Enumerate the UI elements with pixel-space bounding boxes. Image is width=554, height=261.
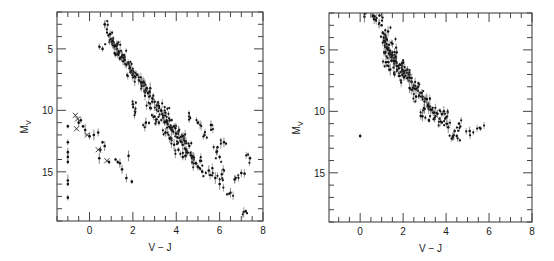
data-point [149, 103, 151, 105]
data-point [158, 114, 160, 116]
data-point [403, 70, 405, 72]
data-point [414, 85, 416, 87]
data-point [418, 83, 420, 85]
data-point [172, 130, 174, 132]
data-point [478, 127, 480, 129]
data-point [476, 127, 478, 129]
data-point [393, 71, 395, 73]
data-point [184, 155, 186, 157]
data-point [386, 43, 388, 45]
data-point [223, 141, 226, 144]
data-point [67, 179, 70, 182]
data-point [237, 177, 239, 179]
data-point [114, 158, 117, 161]
data-point [421, 92, 423, 94]
data-point [150, 107, 152, 109]
data-point [155, 109, 157, 111]
data-point [191, 161, 193, 163]
data-point [119, 44, 121, 46]
x-axis-label: V − J [419, 243, 442, 254]
data-point [219, 178, 221, 180]
x-tick-label: 8 [529, 226, 535, 237]
data-point [435, 112, 437, 114]
cross-marker [74, 126, 79, 131]
data-point [67, 196, 70, 199]
data-point [444, 113, 446, 115]
data-point [132, 70, 134, 72]
data-point [383, 65, 385, 67]
data-point [195, 162, 197, 164]
data-point [177, 132, 179, 134]
data-point [97, 131, 100, 134]
data-point [101, 141, 104, 144]
data-point [204, 131, 206, 133]
data-point [84, 129, 87, 132]
data-point [404, 66, 406, 68]
data-point [243, 172, 245, 174]
data-point [218, 156, 221, 159]
data-point [113, 52, 115, 54]
data-point [125, 177, 128, 180]
data-point [414, 81, 416, 83]
data-point [389, 50, 391, 52]
data-point [82, 125, 85, 128]
data-point [441, 113, 443, 115]
data-point [135, 74, 137, 76]
data-point [450, 138, 452, 140]
data-point [67, 161, 70, 164]
data-point [387, 48, 389, 50]
data-point [167, 134, 169, 136]
data-point [248, 162, 250, 164]
data-point [67, 125, 70, 128]
data-point [387, 30, 390, 33]
data-point [144, 95, 146, 97]
data-point [216, 175, 218, 177]
x-axis-label: V − J [148, 242, 171, 253]
data-point [98, 157, 101, 160]
data-point [449, 122, 451, 124]
data-point [142, 124, 144, 126]
data-point [395, 51, 398, 54]
data-point [215, 151, 217, 153]
data-point [200, 160, 202, 162]
data-point [154, 119, 156, 121]
data-point [468, 130, 471, 133]
data-point [166, 132, 168, 134]
x-tick-label: 2 [130, 225, 136, 236]
data-point [93, 134, 96, 137]
data-point [174, 153, 176, 155]
data-point [423, 100, 426, 103]
data-point [197, 121, 200, 124]
data-point [153, 100, 156, 103]
data-point [232, 195, 234, 197]
data-point [154, 123, 156, 125]
data-point [359, 135, 362, 138]
data-point [195, 119, 197, 121]
data-point [115, 45, 117, 47]
data-point [106, 28, 108, 30]
data-point [166, 127, 168, 129]
data-point [240, 172, 243, 175]
y-tick-label: 5 [319, 45, 325, 56]
data-point [157, 104, 159, 106]
data-point [125, 50, 127, 52]
data-point [121, 168, 124, 171]
data-point [148, 122, 150, 124]
data-point [393, 51, 395, 53]
data-point [427, 104, 429, 106]
x-tick-label: 8 [260, 225, 266, 236]
data-point [148, 90, 150, 92]
data-point [130, 70, 132, 72]
data-point [130, 63, 132, 65]
data-point [180, 136, 182, 138]
data-point [110, 41, 112, 43]
data-point [408, 71, 410, 73]
data-point [414, 100, 416, 102]
data-point [386, 57, 388, 59]
data-point [161, 102, 163, 104]
y-axis-label: MV [19, 120, 32, 133]
y-tick-label: 15 [314, 168, 326, 179]
data-point [170, 137, 172, 139]
data-point [133, 75, 135, 77]
data-point [394, 60, 396, 62]
